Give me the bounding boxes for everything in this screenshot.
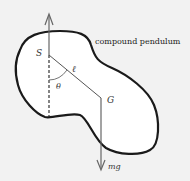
angle-label: θ [56, 82, 61, 91]
length-label: ℓ [72, 64, 76, 74]
center-of-mass-label: G [107, 95, 114, 105]
diagram-caption: compound pendulum [95, 37, 181, 46]
compound-pendulum-diagram: S ℓ θ G mg compound pendulum [0, 0, 190, 181]
pivot-label: S [36, 48, 42, 58]
weight-label: mg [108, 162, 121, 171]
